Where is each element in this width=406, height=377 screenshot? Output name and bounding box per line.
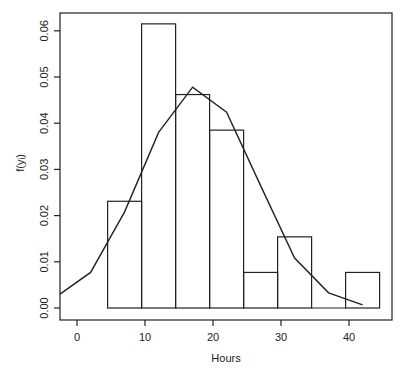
histogram-bar bbox=[108, 201, 142, 308]
x-tick-label: 20 bbox=[207, 331, 219, 343]
y-tick-label: 0.04 bbox=[38, 112, 50, 133]
histogram-bar bbox=[244, 272, 278, 308]
histogram-bar bbox=[210, 130, 244, 308]
y-tick-label: 0.00 bbox=[38, 297, 50, 318]
y-axis-label: f(yᵢ) bbox=[14, 154, 26, 172]
histogram-bar bbox=[142, 24, 176, 308]
x-tick-label: 30 bbox=[275, 331, 287, 343]
histogram-bars bbox=[108, 24, 380, 308]
histogram-bar bbox=[346, 272, 380, 308]
plot-frame bbox=[60, 13, 392, 320]
histogram-bar bbox=[278, 237, 312, 308]
y-tick-label: 0.02 bbox=[38, 205, 50, 226]
y-axis: 0.000.010.020.030.040.050.06 bbox=[38, 20, 60, 319]
density-line bbox=[60, 87, 363, 305]
y-tick-label: 0.01 bbox=[38, 251, 50, 272]
x-axis: 010203040 bbox=[74, 320, 355, 343]
x-tick-label: 40 bbox=[343, 331, 355, 343]
x-tick-label: 0 bbox=[74, 331, 80, 343]
histogram-chart: 010203040 0.000.010.020.030.040.050.06 H… bbox=[0, 0, 406, 377]
y-tick-label: 0.03 bbox=[38, 159, 50, 180]
histogram-bar bbox=[176, 95, 210, 308]
y-tick-label: 0.05 bbox=[38, 66, 50, 87]
plot-area bbox=[60, 13, 392, 320]
density-curve bbox=[60, 87, 363, 305]
y-tick-label: 0.06 bbox=[38, 20, 50, 41]
x-axis-label: Hours bbox=[211, 352, 241, 364]
x-tick-label: 10 bbox=[139, 331, 151, 343]
